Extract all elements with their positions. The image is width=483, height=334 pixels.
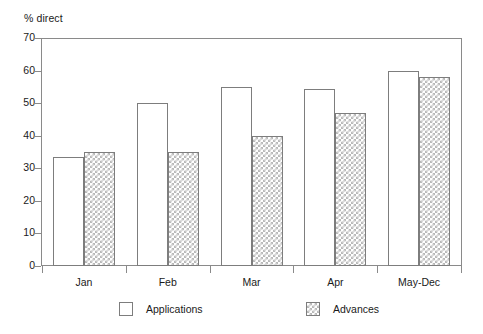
bar-chart-figure: % direct 010203040506070 JanFebMarAprMay…: [0, 0, 483, 334]
y-axis-tick-mark: [34, 201, 41, 202]
legend-swatch-advances: [306, 302, 320, 316]
bar-jan-advances: [84, 152, 115, 266]
x-axis-label-may-dec: May-Dec: [398, 276, 440, 288]
x-axis-tick-mark: [293, 266, 294, 273]
bar-may-dec-advances: [419, 77, 450, 266]
x-axis-label-apr: Apr: [327, 276, 343, 288]
x-axis-tick-mark: [42, 266, 43, 273]
legend-entry-advances[interactable]: Advances: [306, 302, 379, 316]
y-axis-tick-mark: [34, 38, 41, 39]
x-axis-label-feb: Feb: [159, 276, 177, 288]
legend-label: Applications: [146, 303, 203, 315]
y-axis-tick-label: 10: [5, 227, 35, 237]
legend-label: Advances: [333, 303, 379, 315]
x-axis-label-mar: Mar: [242, 276, 260, 288]
y-axis-tick-label: 50: [5, 97, 35, 107]
y-axis-tick-mark: [34, 103, 41, 104]
bar-jan-applications: [53, 157, 84, 266]
y-axis-title: % direct: [24, 12, 63, 24]
y-axis-tick-label: 60: [5, 65, 35, 75]
bar-mar-advances: [252, 136, 283, 266]
bar-feb-advances: [168, 152, 199, 266]
y-axis-tick-mark: [34, 266, 41, 267]
chart-legend: ApplicationsAdvances: [41, 298, 462, 324]
x-axis-tick-mark: [210, 266, 211, 273]
bar-may-dec-applications: [388, 71, 419, 266]
y-axis-tick-label: 70: [5, 32, 35, 42]
y-axis-tick-label: 30: [5, 162, 35, 172]
y-axis-tick-mark: [34, 71, 41, 72]
bar-feb-applications: [137, 103, 168, 266]
bar-apr-applications: [304, 89, 335, 267]
x-axis-tick-mark: [461, 266, 462, 273]
x-axis-label-jan: Jan: [75, 276, 92, 288]
x-axis-tick-mark: [377, 266, 378, 273]
bar-apr-advances: [335, 113, 366, 266]
y-axis-tick-mark: [34, 136, 41, 137]
x-axis-tick-mark: [126, 266, 127, 273]
legend-entry-applications[interactable]: Applications: [119, 302, 203, 316]
legend-swatch-applications: [119, 302, 133, 316]
y-axis-tick-mark: [34, 168, 41, 169]
bars-layer: [42, 39, 461, 266]
y-axis-tick-label: 20: [5, 195, 35, 205]
y-axis-tick-label: 40: [5, 130, 35, 140]
bar-mar-applications: [221, 87, 252, 266]
y-axis-tick-mark: [34, 233, 41, 234]
y-axis-tick-label: 0: [5, 260, 35, 270]
